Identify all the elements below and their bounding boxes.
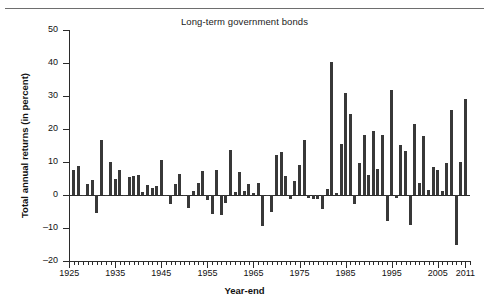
bar: [298, 165, 301, 195]
x-tick-minor: [143, 261, 144, 265]
bar: [261, 195, 264, 225]
bar: [270, 195, 273, 212]
x-tick-minor: [419, 261, 420, 265]
bar: [109, 162, 112, 195]
bar: [395, 195, 398, 198]
bar: [280, 152, 283, 196]
bar: [441, 191, 444, 195]
x-tick-minor: [166, 261, 167, 265]
x-tick-minor: [230, 261, 231, 265]
x-tick-minor: [327, 261, 328, 265]
x-tick-minor: [382, 261, 383, 265]
y-tick-mark: [63, 195, 70, 196]
bar: [353, 195, 356, 204]
bar: [450, 110, 453, 196]
bar: [464, 99, 467, 195]
x-tick-minor: [332, 261, 333, 265]
bar: [141, 192, 144, 195]
bar: [409, 195, 412, 225]
bar: [201, 171, 204, 195]
x-tick-minor: [129, 261, 130, 265]
bar: [399, 145, 402, 195]
bar: [118, 170, 121, 195]
y-tick-mark: [63, 96, 70, 97]
x-tick-minor: [198, 261, 199, 265]
x-tick-label: 1985: [326, 269, 366, 278]
bar: [376, 169, 379, 196]
x-tick-minor: [212, 261, 213, 265]
bar: [146, 185, 149, 196]
bar: [238, 172, 241, 195]
y-tick-mark: [63, 30, 70, 31]
bar: [404, 151, 407, 196]
x-tick-minor: [152, 261, 153, 265]
bar: [284, 176, 287, 195]
bar: [335, 193, 338, 195]
x-tick-minor: [323, 261, 324, 265]
bar: [123, 195, 126, 196]
x-tick-minor: [461, 261, 462, 265]
x-tick-minor: [217, 261, 218, 265]
x-tick-minor: [433, 261, 434, 265]
bar: [128, 177, 131, 195]
bar: [86, 184, 89, 195]
top-divider: [5, 8, 484, 9]
x-tick-minor: [138, 261, 139, 265]
bar: [105, 195, 108, 196]
x-tick-minor: [83, 261, 84, 265]
x-tick-minor: [235, 261, 236, 265]
bar: [418, 183, 421, 195]
bar: [289, 195, 292, 199]
x-tick-minor: [258, 261, 259, 265]
x-tick-minor: [249, 261, 250, 265]
bar: [174, 184, 177, 195]
bar: [363, 135, 366, 195]
x-tick-minor: [106, 261, 107, 265]
bar: [459, 162, 462, 195]
bar: [349, 114, 352, 195]
bar: [114, 179, 117, 196]
bar: [243, 191, 246, 195]
x-tick-minor: [120, 261, 121, 265]
x-tick-minor: [401, 261, 402, 265]
bar: [155, 186, 158, 195]
x-tick-minor: [406, 261, 407, 265]
x-tick-minor: [267, 261, 268, 265]
x-tick-minor: [290, 261, 291, 265]
bar: [307, 195, 310, 197]
y-tick-mark: [63, 228, 70, 229]
bar: [266, 195, 269, 196]
x-tick-minor: [272, 261, 273, 265]
x-tick-minor: [263, 261, 264, 265]
bar: [422, 136, 425, 195]
x-tick-minor: [295, 261, 296, 265]
bar: [275, 155, 278, 195]
x-tick-minor: [281, 261, 282, 265]
bar: [455, 195, 458, 244]
bar: [344, 93, 347, 195]
x-tick-minor: [74, 261, 75, 265]
bar: [192, 191, 195, 195]
bar: [224, 195, 227, 203]
x-tick-minor: [277, 261, 278, 265]
x-tick-minor: [157, 261, 158, 265]
bar: [183, 195, 186, 196]
x-tick-minor: [336, 261, 337, 265]
bar: [326, 189, 329, 195]
x-tick-minor: [410, 261, 411, 265]
bar: [303, 140, 306, 196]
bar: [206, 195, 209, 199]
x-tick-minor: [240, 261, 241, 265]
bar: [151, 188, 154, 195]
bar: [436, 170, 439, 196]
x-tick-minor: [369, 261, 370, 265]
bar: [160, 160, 163, 195]
x-tick-minor: [364, 261, 365, 265]
y-tick-mark: [63, 129, 70, 130]
y-axis-line: [69, 30, 70, 262]
x-tick-minor: [318, 261, 319, 265]
y-tick-mark: [63, 63, 70, 64]
x-tick-minor: [111, 261, 112, 265]
x-tick-minor: [194, 261, 195, 265]
x-tick-minor: [304, 261, 305, 265]
